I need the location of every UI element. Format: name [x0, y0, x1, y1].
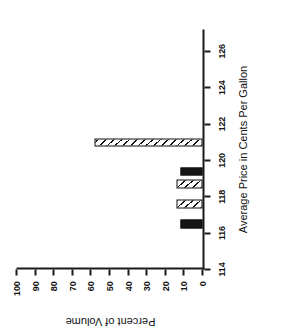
- y-tick-label: 80: [48, 281, 58, 291]
- y-tick-mark: [15, 269, 17, 275]
- y-tick-label: 70: [67, 281, 77, 291]
- y-tick-mark: [71, 269, 73, 275]
- bar-117-6: [176, 199, 202, 207]
- y-tick-mark: [127, 269, 129, 275]
- x-tick-mark: [204, 50, 210, 52]
- x-tick-mark: [204, 232, 210, 234]
- y-tick-mark: [145, 269, 147, 275]
- x-axis-title: Average Price in Cents Per Gallon: [236, 65, 248, 232]
- y-tick-label: 10: [178, 281, 188, 291]
- x-tick-label: 122: [216, 116, 226, 130]
- y-tick-label: 0: [197, 281, 207, 286]
- bar-chart-figure: 114116118120122124126 010203040506070809…: [0, 0, 285, 331]
- y-tick-mark: [201, 269, 203, 275]
- y-tick-mark: [108, 269, 110, 275]
- y-tick-mark: [89, 269, 91, 275]
- x-tick-mark: [204, 123, 210, 125]
- y-axis-title: Percent of Volume: [65, 315, 155, 327]
- x-tick-label: 124: [216, 80, 226, 94]
- y-tick-mark: [164, 269, 166, 275]
- x-tick-label: 120: [216, 153, 226, 167]
- x-tick-label: 114: [216, 262, 226, 276]
- x-tick-mark: [204, 86, 210, 88]
- bar-119-4: [180, 167, 202, 175]
- x-tick-label: 116: [216, 226, 226, 240]
- bar-118-7: [176, 179, 202, 187]
- y-tick-label: 20: [160, 281, 170, 291]
- y-tick-label: 90: [30, 281, 40, 291]
- y-tick-label: 30: [141, 281, 151, 291]
- y-tick-label: 50: [104, 281, 114, 291]
- x-tick-label: 126: [216, 44, 226, 58]
- y-tick-mark: [34, 269, 36, 275]
- x-tick-mark: [204, 195, 210, 197]
- y-tick-label: 40: [123, 281, 133, 291]
- plot-area: 114116118120122124126 010203040506070809…: [16, 29, 204, 269]
- bar-116-5: [180, 219, 202, 227]
- x-tick-label: 118: [216, 189, 226, 203]
- y-tick-mark: [182, 269, 184, 275]
- x-tick-mark: [204, 159, 210, 161]
- y-tick-mark: [52, 269, 54, 275]
- rotated-figure-container: 114116118120122124126 010203040506070809…: [0, 0, 285, 331]
- y-tick-label: 60: [85, 281, 95, 291]
- y-tick-label: 100: [11, 281, 21, 295]
- x-tick-mark: [204, 268, 210, 270]
- bar-121-0: [94, 138, 202, 146]
